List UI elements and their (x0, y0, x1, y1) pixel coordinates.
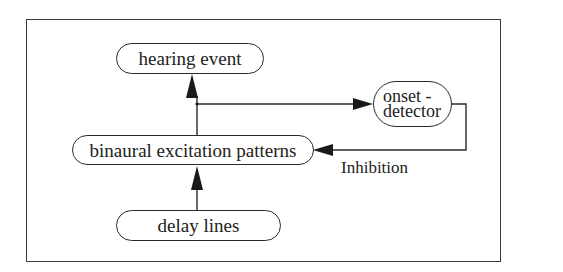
node-binaural-label: binaural excitation patterns (90, 141, 297, 160)
node-onset-detector: onset - detector (373, 81, 452, 127)
node-binaural-excitation-patterns: binaural excitation patterns (72, 135, 314, 165)
arrowhead-up-icon (186, 74, 198, 98)
node-hearing-event: hearing event (116, 43, 264, 74)
node-hearing-event-label: hearing event (139, 49, 242, 68)
arrowhead-right-icon (353, 98, 373, 110)
junction-dot (195, 102, 198, 105)
arrowhead-up-icon (191, 166, 203, 190)
node-delay-lines: delay lines (116, 210, 281, 241)
arrowhead-left-icon (313, 144, 333, 156)
node-onset-detector-line2: detector (383, 104, 441, 119)
node-delay-lines-label: delay lines (158, 216, 240, 235)
inhibition-label: Inhibition (341, 158, 408, 178)
